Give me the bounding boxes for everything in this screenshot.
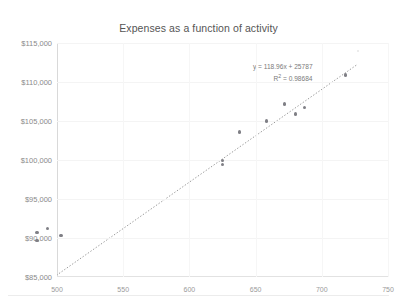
x-axis-tick-label: 550 bbox=[117, 286, 129, 293]
screenshot-root: Expenses as a function of activity y = 1… bbox=[0, 0, 397, 308]
data-point bbox=[283, 102, 286, 105]
gridline-horizontal bbox=[57, 199, 388, 200]
x-axis-tick-label: 650 bbox=[250, 286, 262, 293]
plot-area: y = 118.96x + 25787 R2 = 0.98684 $85,000… bbox=[57, 38, 388, 282]
gridline-vertical bbox=[123, 43, 124, 277]
data-point bbox=[35, 239, 38, 242]
x-axis-tick-label: 600 bbox=[184, 286, 196, 293]
gridline-vertical bbox=[189, 43, 190, 277]
y-axis-tick-label: $85,000 bbox=[25, 273, 52, 282]
data-point bbox=[59, 234, 62, 237]
x-axis-line bbox=[57, 276, 388, 277]
chart-card: Expenses as a function of activity y = 1… bbox=[8, 14, 389, 296]
gridline-vertical bbox=[322, 43, 323, 277]
y-axis-tick-label: $100,000 bbox=[21, 156, 52, 165]
gridline-horizontal bbox=[57, 238, 388, 239]
clipped-top-text bbox=[0, 0, 397, 9]
data-point bbox=[238, 130, 241, 133]
chart-title: Expenses as a function of activity bbox=[8, 22, 389, 34]
gridline-horizontal bbox=[57, 82, 388, 83]
x-axis-tick-label: 500 bbox=[51, 286, 63, 293]
y-axis-tick-label: $95,000 bbox=[25, 195, 52, 204]
data-point bbox=[46, 227, 49, 230]
stray-speck bbox=[357, 50, 359, 52]
regression-equation: y = 118.96x + 25787 bbox=[231, 63, 313, 72]
data-point bbox=[221, 159, 224, 162]
regression-annotation: y = 118.96x + 25787 R2 = 0.98684 bbox=[231, 63, 313, 83]
data-point bbox=[344, 73, 347, 76]
y-axis-tick-label: $115,000 bbox=[21, 39, 52, 48]
x-axis-tick-label: 700 bbox=[316, 286, 328, 293]
gridline-vertical bbox=[256, 43, 257, 277]
data-point bbox=[221, 163, 224, 166]
gridline-horizontal bbox=[57, 43, 388, 44]
gridline-horizontal bbox=[57, 121, 388, 122]
y-axis-tick-label: $105,000 bbox=[21, 117, 52, 126]
data-point bbox=[265, 119, 268, 122]
y-axis-tick-label: $110,000 bbox=[21, 78, 52, 87]
plot-canvas: y = 118.96x + 25787 R2 = 0.98684 $85,000… bbox=[57, 38, 388, 282]
data-point bbox=[35, 231, 38, 234]
gridline-vertical bbox=[388, 43, 389, 277]
x-axis-tick-label: 750 bbox=[382, 286, 394, 293]
data-point bbox=[294, 112, 297, 115]
data-point bbox=[303, 106, 306, 109]
